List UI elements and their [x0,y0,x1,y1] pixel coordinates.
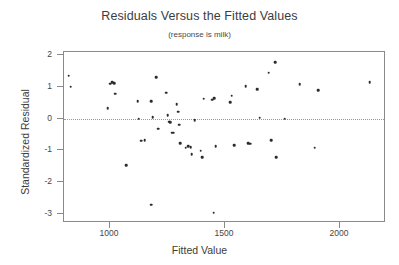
data-point [190,153,193,156]
data-point [179,142,182,145]
data-point [177,110,180,113]
y-tick-label: -2 [44,176,52,186]
x-tick-mark [339,222,340,228]
data-point [274,61,277,64]
data-point [270,139,273,142]
data-point [369,81,372,84]
data-point [114,93,117,96]
data-point [249,143,252,146]
y-tick-label: 2 [47,49,52,59]
y-tick-label: -1 [44,144,52,154]
data-point [256,88,259,91]
x-axis-tick-labels: 100015002000 [0,228,399,242]
x-tick-label: 2000 [330,228,349,238]
data-point [258,117,261,120]
data-point [157,127,160,130]
chart-subtitle: (response is milk) [0,30,399,39]
data-point [113,82,116,85]
data-point [215,145,218,148]
data-point [125,164,128,167]
data-point [137,117,140,120]
data-point [189,146,192,149]
data-point [212,212,215,215]
data-point [150,203,153,206]
y-tick-label: 1 [47,81,52,91]
plot-area [63,51,385,222]
data-point [136,100,139,103]
data-point [140,139,143,142]
y-axis-tick-labels: 210-1-2-3 [28,0,52,265]
data-point [213,97,216,100]
data-point [313,146,316,149]
data-point [175,103,178,106]
x-tick-mark [224,222,225,228]
data-point [166,114,169,117]
x-tick-label: 1000 [100,228,119,238]
y-tick-label: 0 [47,113,52,123]
data-point [231,94,234,97]
data-point [169,121,172,124]
data-point [275,156,278,159]
y-tick-label: -3 [44,208,52,218]
data-point [70,86,73,89]
data-point [201,156,204,159]
data-point [229,101,232,104]
data-point [172,131,175,134]
data-point [244,85,247,88]
page-title: Residuals Versus the Fitted Values [0,9,399,23]
data-point [150,100,153,103]
data-point [200,150,203,153]
data-point [298,83,301,86]
data-point [233,144,236,147]
data-point [178,124,181,127]
data-point [267,71,270,74]
x-tick-label: 1500 [215,228,234,238]
zero-reference-line [64,119,384,120]
data-point [317,89,320,92]
data-point [165,91,168,94]
data-point [203,98,206,101]
data-point [106,107,109,110]
data-point [155,76,158,79]
x-tick-mark [109,222,110,228]
data-point [67,74,70,77]
data-point [143,139,146,142]
data-point [284,117,287,120]
data-point [151,116,154,119]
data-point [193,119,196,122]
x-axis-label: Fitted Value [0,244,399,256]
residual-plot-figure: Residuals Versus the Fitted Values (resp… [0,0,399,265]
